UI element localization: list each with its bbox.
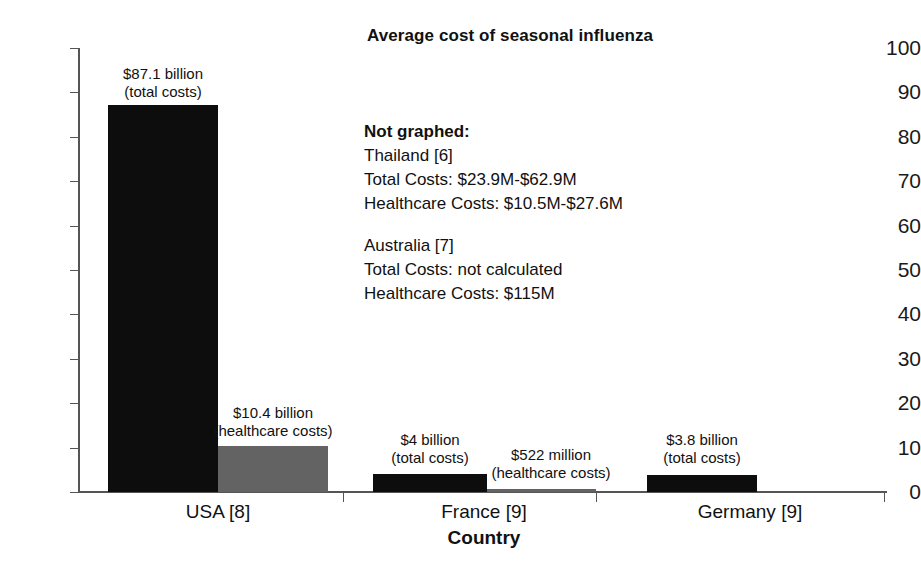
bar-label-france-total-value: $4 billion (400, 431, 459, 448)
y-tick-mark-70 (70, 181, 79, 182)
y-tick-mark-10 (70, 448, 79, 449)
note-australia-name: Australia [7] (364, 234, 623, 258)
not-graphed-annotation: Not graphed: Thailand [6] Total Costs: $… (364, 120, 623, 306)
bar-label-germany-total-sub: (total costs) (632, 449, 772, 467)
y-tick-label-0: 0 (867, 481, 921, 502)
y-tick-mark-80 (70, 137, 79, 138)
y-tick-mark-90 (70, 92, 79, 93)
y-tick-mark-30 (70, 359, 79, 360)
chart-title: Average cost of seasonal influenza (300, 26, 720, 46)
y-tick-label-30: 30 (867, 348, 921, 369)
y-tick-label-20: 20 (867, 392, 921, 413)
x-category-label-france: France [9] (414, 501, 554, 523)
bar-france-healthcare-costs[interactable] (487, 489, 596, 492)
bar-label-usa-healthcare-value: $10.4 billion (233, 404, 313, 421)
bar-label-usa-total-value: $87.1 billion (123, 65, 203, 82)
note-thailand-total-costs: Total Costs: $23.9M-$62.9M (364, 168, 623, 192)
y-tick-mark-50 (70, 270, 79, 271)
x-axis-title: Country (414, 527, 554, 549)
y-tick-label-50: 50 (867, 259, 921, 280)
y-tick-mark-0 (70, 492, 79, 493)
y-tick-label-100: 100 (867, 37, 921, 58)
y-tick-mark-20 (70, 403, 79, 404)
y-tick-label-60: 60 (867, 215, 921, 236)
note-thailand-name: Thailand [6] (364, 144, 623, 168)
note-australia-total-costs: Total Costs: not calculated (364, 258, 623, 282)
bar-label-usa-healthcare: $10.4 billion (healthcare costs) (193, 404, 353, 439)
bar-label-usa-total-sub: (total costs) (93, 83, 233, 101)
y-tick-label-40: 40 (867, 303, 921, 324)
bar-label-france-healthcare-sub: (healthcare costs) (463, 464, 639, 482)
bar-label-usa-healthcare-sub: (healthcare costs) (193, 422, 353, 440)
bar-label-usa-total: $87.1 billion (total costs) (93, 65, 233, 100)
y-tick-mark-60 (70, 226, 79, 227)
x-category-label-usa: USA [8] (148, 501, 288, 523)
note-spacer (364, 217, 623, 234)
bar-usa-healthcare-costs[interactable] (218, 446, 328, 492)
x-tick-mark-1 (343, 493, 344, 502)
y-tick-label-90: 90 (867, 81, 921, 102)
bar-label-france-healthcare-value: $522 million (511, 446, 591, 463)
bar-label-germany-total: $3.8 billion (total costs) (632, 431, 772, 466)
note-heading: Not graphed: (364, 120, 623, 144)
y-tick-mark-40 (70, 314, 79, 315)
y-tick-label-80: 80 (867, 126, 921, 147)
x-tick-mark-3 (884, 493, 885, 502)
x-category-label-germany: Germany [9] (670, 501, 830, 523)
y-tick-mark-100 (70, 48, 79, 49)
y-tick-label-10: 10 (867, 437, 921, 458)
x-tick-mark-2 (596, 493, 597, 502)
note-thailand-healthcare-costs: Healthcare Costs: $10.5M-$27.6M (364, 192, 623, 216)
bar-germany-total-costs[interactable] (647, 475, 757, 492)
note-australia-healthcare-costs: Healthcare Costs: $115M (364, 282, 623, 306)
chart-figure: Average cost of seasonal influenza 100 9… (0, 0, 921, 581)
bar-label-france-healthcare: $522 million (healthcare costs) (463, 446, 639, 481)
bar-label-germany-total-value: $3.8 billion (666, 431, 738, 448)
y-tick-label-70: 70 (867, 170, 921, 191)
